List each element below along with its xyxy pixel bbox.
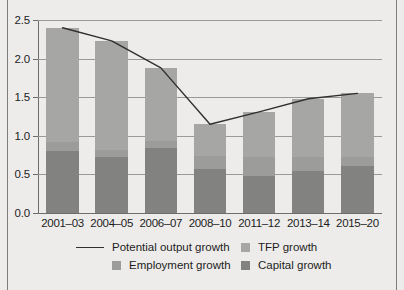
x-axis-tick-label: 2015–20	[336, 217, 379, 229]
legend-item-potential-output-growth: Potential output growth	[76, 241, 230, 253]
x-axis-tick-label: 2011–12	[238, 217, 280, 229]
y-axis-tick-label: 0.0	[15, 207, 30, 219]
x-axis-tick-label: 2001–03	[41, 217, 84, 229]
legend-item-employment-growth: Employment growth	[112, 259, 231, 271]
swatch-icon	[241, 243, 250, 252]
legend-label: Capital growth	[258, 259, 332, 271]
legend-item-capital-growth: Capital growth	[241, 259, 332, 271]
line-path	[63, 28, 358, 125]
y-axis-tick-label: 1.0	[15, 130, 30, 142]
legend-label: Potential output growth	[112, 241, 230, 253]
chart-figure: 0.00.51.01.52.02.5 2001–032004–052006–07…	[0, 0, 404, 290]
legend-label: TFP growth	[258, 241, 317, 253]
y-axis-tick-label: 2.5	[15, 14, 30, 26]
page-rule-left	[7, 0, 8, 290]
plot-area: 0.00.51.01.52.02.5 2001–032004–052006–07…	[38, 20, 382, 214]
legend-item-tfp-growth: TFP growth	[241, 241, 317, 253]
y-axis-tick-label: 1.5	[15, 91, 30, 103]
chart-legend: Potential output growth TFP growth Emplo…	[38, 240, 382, 276]
swatch-icon	[241, 261, 250, 270]
x-axis-tick-label: 2004–05	[90, 217, 133, 229]
y-axis-tick-label: 2.0	[15, 53, 30, 65]
legend-label: Employment growth	[129, 259, 231, 271]
y-axis-tick-label: 0.5	[15, 168, 30, 180]
x-axis-tick-label: 2006–07	[140, 217, 183, 229]
swatch-icon	[112, 261, 121, 270]
potential-output-growth-line	[38, 20, 382, 214]
line-marker-icon	[76, 247, 104, 248]
page-rule-right	[396, 0, 397, 290]
x-axis-tick-label: 2008–10	[189, 217, 232, 229]
x-axis-tick-label: 2013–14	[287, 217, 330, 229]
